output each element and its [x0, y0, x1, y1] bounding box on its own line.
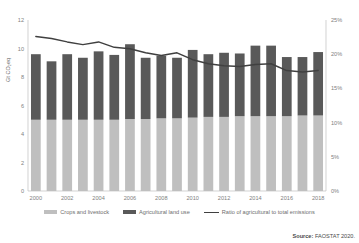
bar-segment-agricultural-land-use — [94, 51, 104, 119]
legend-item-label: Ratio of agricultural to total emissions — [222, 209, 315, 215]
bar-segment-agricultural-land-use — [219, 53, 229, 117]
bar-segment-agricultural-land-use — [47, 61, 57, 119]
legend-swatch-icon — [44, 210, 57, 214]
bar-segment-crops-and-livestock — [266, 116, 276, 191]
legend-item[interactable]: Ratio of agricultural to total emissions — [204, 209, 315, 215]
bar-segment-agricultural-land-use — [313, 52, 323, 115]
bar-segment-agricultural-land-use — [172, 58, 182, 119]
bar-segment-agricultural-land-use — [156, 56, 166, 119]
bar-segment-crops-and-livestock — [172, 118, 182, 191]
legend-item-label: Agricultural land use — [139, 209, 190, 215]
bar-segment-agricultural-land-use — [266, 46, 276, 117]
bar-segment-agricultural-land-use — [125, 44, 135, 119]
bar-segment-crops-and-livestock — [313, 115, 323, 191]
bar-segment-crops-and-livestock — [47, 120, 57, 191]
bar-segment-crops-and-livestock — [94, 120, 104, 191]
bar-segment-crops-and-livestock — [78, 120, 88, 191]
bar-segment-crops-and-livestock — [219, 117, 229, 191]
legend-swatch-icon — [123, 210, 136, 214]
bar-segment-crops-and-livestock — [141, 119, 151, 191]
bar-segment-crops-and-livestock — [251, 116, 261, 191]
legend-item-label: Crops and livestock — [60, 209, 109, 215]
bar-segment-crops-and-livestock — [204, 117, 214, 191]
chart-legend: Crops and livestockAgricultural land use… — [0, 209, 359, 215]
bar-segment-crops-and-livestock — [62, 120, 72, 191]
bar-segment-crops-and-livestock — [109, 120, 119, 191]
bar-segment-agricultural-land-use — [298, 57, 308, 115]
bar-segment-crops-and-livestock — [156, 118, 166, 191]
bar-segment-crops-and-livestock — [31, 120, 41, 191]
legend-item[interactable]: Agricultural land use — [123, 209, 190, 215]
bar-segment-agricultural-land-use — [31, 54, 41, 120]
bar-segment-agricultural-land-use — [235, 53, 245, 116]
bar-segment-crops-and-livestock — [188, 118, 198, 191]
plot-area — [0, 0, 359, 243]
source-label: Source: — [293, 233, 314, 239]
chart-container: Gt CO₂eq 024681012 0%5%10%15%20%25% 2000… — [0, 0, 359, 243]
legend-line-icon — [204, 212, 219, 213]
bar-segment-crops-and-livestock — [125, 119, 135, 191]
bar-segment-agricultural-land-use — [141, 58, 151, 119]
bar-segment-crops-and-livestock — [282, 116, 292, 191]
source-note: Source: FAOSTAT 2020. — [293, 233, 356, 239]
source-value: FAOSTAT 2020. — [315, 233, 355, 239]
bar-segment-agricultural-land-use — [62, 54, 72, 120]
bar-segment-crops-and-livestock — [235, 116, 245, 191]
bar-segment-agricultural-land-use — [251, 46, 261, 117]
bar-segment-agricultural-land-use — [282, 57, 292, 116]
legend-item[interactable]: Crops and livestock — [44, 209, 109, 215]
bar-segment-crops-and-livestock — [298, 115, 308, 191]
bar-segment-agricultural-land-use — [109, 55, 119, 120]
bar-segment-agricultural-land-use — [78, 58, 88, 120]
